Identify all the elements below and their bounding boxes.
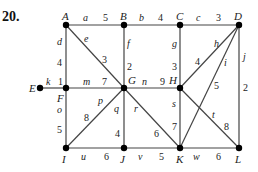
vertex-F: [63, 85, 69, 91]
edge-weight-t: 8: [224, 121, 229, 132]
vertex-label-I: I: [61, 153, 67, 165]
vertex-B: [121, 22, 127, 28]
edge-weight-c: 3: [216, 12, 221, 23]
edge-name-w: w: [193, 151, 200, 162]
vertex-J: [121, 145, 127, 151]
edge-i: [180, 25, 239, 148]
vertex-label-A: A: [61, 10, 69, 22]
vertex-label-E: E: [28, 82, 36, 94]
vertex-label-J: J: [120, 153, 126, 165]
vertex-label-F: F: [56, 92, 64, 104]
edge-name-u: u: [81, 151, 86, 162]
edge-weight-e: 3: [102, 54, 107, 65]
vertex-K: [177, 145, 183, 151]
edge-name-v: v: [138, 151, 143, 162]
edge-r: [124, 88, 180, 148]
vertex-label-B: B: [120, 10, 127, 22]
edge-weight-a: 5: [103, 12, 108, 23]
edge-weight-p: 8: [84, 112, 89, 123]
edge-name-j: j: [241, 51, 246, 62]
vertex-D: [236, 22, 242, 28]
edge-name-r: r: [134, 103, 138, 114]
edge-weight-u: 6: [104, 151, 109, 162]
edge-weight-d: 4: [57, 57, 62, 68]
edge-name-b: b: [139, 12, 144, 23]
vertex-G: [121, 85, 127, 91]
edge-name-a: a: [83, 12, 88, 23]
edge-name-e: e: [84, 33, 89, 44]
edge-name-o: o: [57, 104, 62, 115]
vertex-E: [37, 85, 43, 91]
edge-h: [180, 25, 239, 88]
edge-name-d: d: [57, 36, 63, 47]
edge-e: [66, 25, 124, 88]
vertex-label-H: H: [168, 74, 178, 86]
edge-weight-m: 7: [102, 76, 107, 87]
edge-name-k: k: [46, 76, 51, 87]
edge-weight-j: 2: [243, 82, 248, 93]
vertex-label-L: L: [234, 153, 241, 165]
edge-p: [66, 88, 124, 148]
edge-weight-b: 4: [158, 12, 163, 23]
vertex-label-D: D: [233, 10, 242, 22]
vertex-A: [63, 22, 69, 28]
edge-name-i: i: [224, 57, 227, 68]
vertex-I: [63, 145, 69, 151]
vertex-H: [177, 85, 183, 91]
edge-name-s: s: [172, 98, 176, 109]
edge-weight-k: 1: [58, 76, 63, 87]
edge-weight-v: 5: [159, 151, 164, 162]
edge-weight-h: 4: [195, 56, 200, 67]
edge-name-m: m: [83, 76, 90, 87]
edge-weight-q: 4: [115, 128, 120, 139]
vertex-L: [236, 145, 242, 151]
edge-name-g: g: [172, 38, 177, 49]
edge-weight-f: 2: [127, 61, 132, 72]
edge-name-h: h: [214, 38, 219, 49]
edge-labels-layer: a5b4c3d4e3f2g3h4i5j2k1m7n9o5p8q4r6s7t8u6…: [46, 12, 248, 162]
edge-weight-r: 6: [154, 128, 159, 139]
edge-weight-w: 6: [216, 151, 221, 162]
edge-t: [180, 88, 239, 148]
edge-name-t: t: [212, 109, 215, 120]
edge-name-q: q: [114, 103, 119, 114]
edge-weight-g: 3: [172, 61, 177, 72]
vertex-C: [177, 22, 183, 28]
edge-weight-n: 9: [160, 76, 165, 87]
vertex-label-K: K: [175, 153, 184, 165]
vertex-label-G: G: [128, 74, 136, 86]
edge-name-f: f: [127, 38, 131, 49]
edge-name-n: n: [142, 76, 147, 87]
edge-weight-o: 5: [57, 124, 62, 135]
weighted-graph: a5b4c3d4e3f2g3h4i5j2k1m7n9o5p8q4r6s7t8u6…: [0, 0, 258, 172]
vertex-label-C: C: [176, 10, 184, 22]
edge-name-c: c: [196, 12, 201, 23]
edge-name-p: p: [97, 95, 103, 106]
edge-weight-i: 5: [214, 80, 219, 91]
edge-weight-s: 7: [172, 121, 177, 132]
edges-layer: [40, 25, 239, 148]
